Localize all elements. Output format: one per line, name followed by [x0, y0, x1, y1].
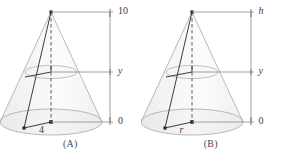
scale-top-label-a: 10 [118, 6, 128, 16]
figure-caption-a: (A) [0, 138, 141, 149]
scale-bottom-label-a: 0 [118, 116, 123, 126]
scale-mid-label-b: y [259, 66, 263, 76]
radius-label-a: 4 [39, 125, 44, 135]
figure-b: h y 0 r (B) [141, 0, 282, 161]
figure-a: 10 y 0 4 (A) [0, 0, 141, 161]
base-rim-point [163, 126, 166, 129]
base-rim-point [22, 126, 25, 129]
figure-a-drawing [0, 0, 141, 161]
scale-mid-label-a: y [118, 66, 122, 76]
scale-top-label-b: h [259, 6, 264, 16]
figure-b-drawing [141, 0, 282, 161]
scale-bottom-label-b: 0 [259, 116, 264, 126]
figure-pair: 10 y 0 4 (A) [0, 0, 281, 161]
figure-caption-b: (B) [141, 138, 282, 149]
radius-label-b: r [180, 125, 184, 135]
